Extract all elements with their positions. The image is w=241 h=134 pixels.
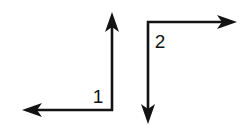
arrow-1-label: 1 xyxy=(93,86,104,107)
arrow-1-group: 1 xyxy=(22,12,119,117)
arrow-2-label: 2 xyxy=(155,31,166,52)
diagram-canvas: 1 2 xyxy=(0,0,241,134)
arrow-2-group: 2 xyxy=(141,15,237,124)
bent-arrows-diagram: 1 2 xyxy=(0,0,241,134)
